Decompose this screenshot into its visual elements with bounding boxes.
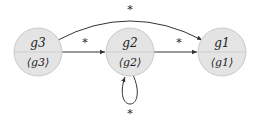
node-g1-label: g1 [214, 36, 229, 50]
node-g3-label: g3 [30, 36, 46, 50]
edge-label-g3-g2: * [82, 36, 88, 49]
edge-label-g3-g1: * [127, 3, 133, 16]
node-g1-subgroup: ⟨g1⟩ [211, 56, 234, 69]
node-g1: g1 ⟨g1⟩ [198, 28, 246, 76]
edge-label-g2-self: * [127, 107, 133, 120]
node-g3: g3 ⟨g3⟩ [14, 28, 62, 76]
node-g2-label: g2 [122, 36, 137, 50]
edge-label-g2-g1: * [176, 36, 182, 49]
node-g2: g2 ⟨g2⟩ [106, 28, 154, 76]
diagram-canvas: * * * * g3 ⟨g3⟩ g2 ⟨g2⟩ g1 ⟨g1⟩ [0, 0, 266, 123]
node-g2-subgroup: ⟨g2⟩ [119, 56, 142, 69]
node-g3-subgroup: ⟨g3⟩ [27, 56, 50, 69]
edge-g2-self [122, 75, 137, 104]
